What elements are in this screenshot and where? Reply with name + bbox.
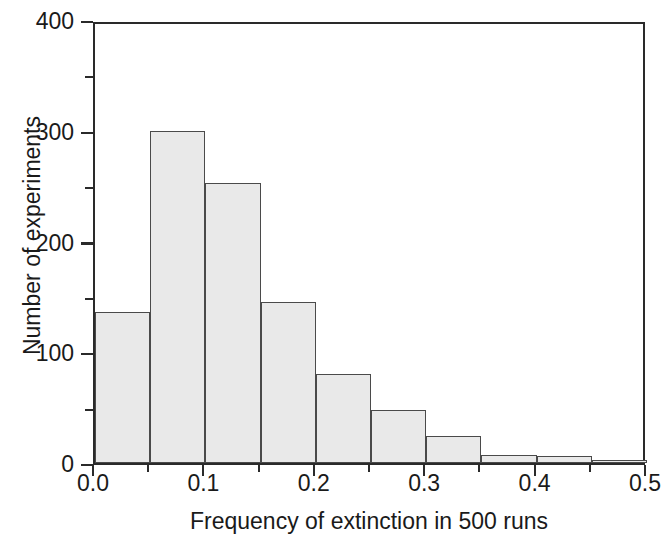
y-axis-tick-label: 300 — [36, 121, 74, 144]
y-axis-tick-label: 400 — [36, 10, 74, 33]
x-axis-minor-tick — [368, 465, 370, 472]
histogram-bar — [481, 455, 536, 463]
bar-series — [95, 24, 643, 463]
x-axis-tick-label: 0.0 — [53, 472, 133, 495]
y-axis-minor-tick — [85, 76, 93, 78]
x-axis-tick-label: 0.2 — [274, 472, 354, 495]
histogram-bar — [316, 374, 371, 463]
x-axis-tick-label: 0.1 — [163, 472, 243, 495]
histogram-bar — [150, 131, 205, 463]
y-axis-minor-tick — [85, 298, 93, 300]
x-axis-tick-label: 0.3 — [384, 472, 464, 495]
histogram-bar — [95, 312, 150, 463]
x-axis-minor-tick — [589, 465, 591, 472]
y-axis-major-tick — [81, 242, 93, 244]
x-axis-minor-tick — [478, 465, 480, 472]
y-axis-major-tick — [81, 132, 93, 134]
x-axis-tick-label: 0.4 — [495, 472, 575, 495]
histogram-figure: Number of experiments 0100200300400 0.00… — [0, 0, 664, 537]
histogram-bar — [592, 460, 647, 463]
y-axis-major-tick — [81, 21, 93, 23]
y-axis-major-tick — [81, 353, 93, 355]
plot-area — [93, 22, 645, 465]
x-axis-title: Frequency of extinction in 500 runs — [93, 508, 645, 535]
x-axis-tick-label: 0.5 — [605, 472, 664, 495]
x-axis-minor-tick — [147, 465, 149, 472]
histogram-bar — [371, 410, 426, 463]
histogram-bar — [261, 302, 316, 463]
y-axis-tick-label: 100 — [36, 342, 74, 365]
histogram-bar — [426, 436, 481, 463]
y-axis-minor-tick — [85, 409, 93, 411]
y-axis-minor-tick — [85, 187, 93, 189]
x-axis-minor-tick — [258, 465, 260, 472]
histogram-bar — [205, 183, 260, 463]
histogram-bar — [537, 456, 592, 463]
y-axis-tick-label: 200 — [36, 232, 74, 255]
